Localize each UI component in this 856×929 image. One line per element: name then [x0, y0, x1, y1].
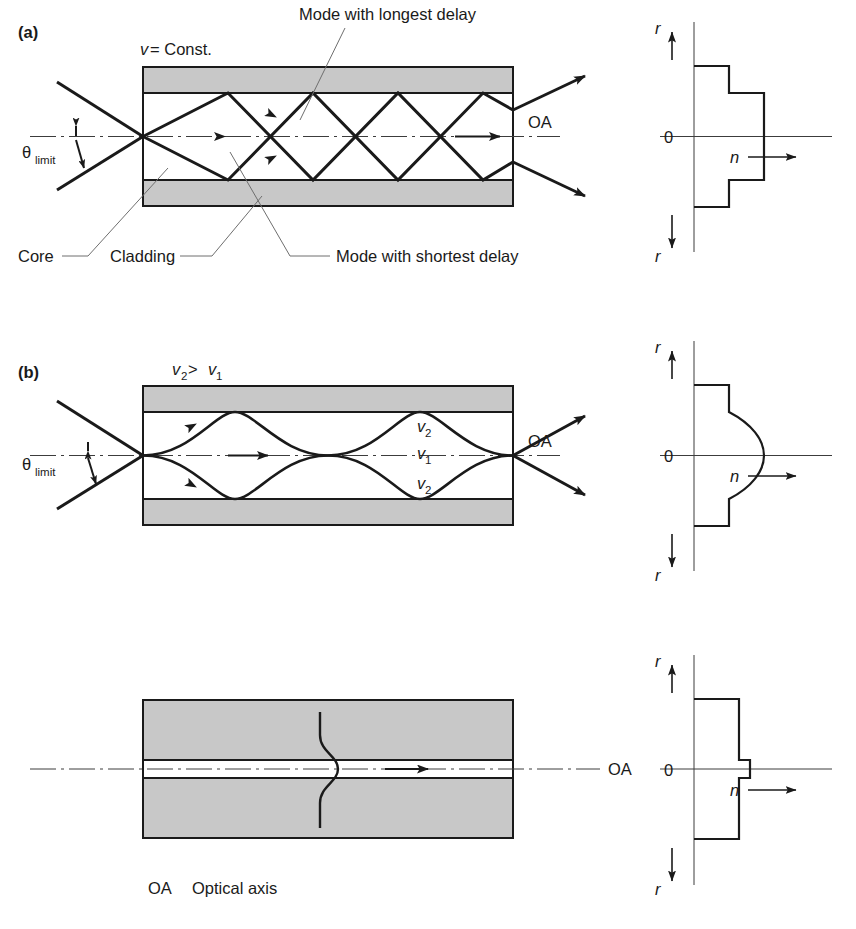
- panel-b-theta-symbol: θ: [22, 455, 31, 473]
- profile-b-n-label: n: [730, 467, 739, 485]
- profile-a-r-label-top: r: [655, 19, 662, 37]
- legend: OA Optical axis: [148, 879, 277, 897]
- panel-b-v2-upper-sub: 2: [425, 427, 431, 439]
- panel-b-cladding-top: [143, 386, 513, 412]
- panel-a-velocity-label: v = Const.: [140, 40, 212, 58]
- panel-b-exit-ray-lower: [513, 456, 585, 496]
- panel-a: (a) v = Const. θ limit: [18, 5, 585, 265]
- panel-b-v2-lower-sub: 2: [425, 484, 431, 496]
- panel-a-theta-subscript: limit: [35, 154, 56, 166]
- profile-a-n-label: n: [730, 148, 739, 166]
- panel-b-velocity-sub-2: 1: [216, 370, 222, 382]
- fiber-diagram-canvas: (a) v = Const. θ limit: [0, 0, 856, 929]
- panel-b-angle-arrow-down: [88, 458, 96, 484]
- panel-a-theta-limit: θ limit: [22, 126, 84, 168]
- panel-a-velocity-symbol: v: [140, 40, 150, 58]
- panel-a-velocity-text: = Const.: [150, 40, 212, 58]
- profile-a-zero-label: 0: [664, 128, 673, 146]
- panel-a-cladding-bottom: [143, 180, 513, 206]
- profile-a-r-label-bottom: r: [655, 247, 662, 265]
- panel-a-optical-axis-label: OA: [528, 113, 552, 131]
- panel-b-cladding-bottom: [143, 499, 513, 525]
- panel-b-incoming-ray-upper: [57, 401, 143, 456]
- panel-a-index-profile: r r 0 n: [655, 19, 832, 265]
- panel-c-optical-axis-label: OA: [608, 760, 632, 778]
- legend-abbreviation: OA: [148, 879, 172, 897]
- panel-b-incoming-ray-lower: [57, 456, 143, 510]
- panel-b-index-profile: r r 0 n: [655, 338, 832, 584]
- panel-a-theta-symbol: θ: [22, 143, 31, 161]
- panel-a-callout-longest-delay: Mode with longest delay: [299, 5, 477, 23]
- panel-a-incoming-ray-upper: [57, 82, 143, 137]
- panel-b-velocity-relation: >: [188, 360, 198, 378]
- profile-b-r-label-bottom: r: [655, 566, 662, 584]
- panel-b-v1-sub: 1: [425, 454, 431, 466]
- panel-b-theta-limit: θ limit: [22, 442, 96, 484]
- legend-meaning: Optical axis: [192, 879, 277, 897]
- panel-a-callout-shortest-delay: Mode with shortest delay: [336, 247, 519, 265]
- panel-b-label: (b): [18, 363, 39, 381]
- profile-c-r-label-bottom: r: [655, 880, 662, 898]
- profile-b-r-label-top: r: [655, 338, 662, 356]
- panel-b-theta-subscript: limit: [35, 466, 56, 478]
- profile-c-n-label: n: [730, 781, 739, 799]
- profile-b-zero-label: 0: [664, 447, 673, 465]
- panel-a-callout-cladding: Cladding: [110, 247, 175, 265]
- profile-c-r-label-top: r: [655, 652, 662, 670]
- panel-a-exit-ray-lower: [513, 162, 585, 196]
- panel-a-label: (a): [18, 23, 38, 41]
- panel-a-incoming-ray-lower: [57, 137, 143, 191]
- panel-a-exit-ray-upper: [513, 76, 585, 110]
- panel-a-angle-arrow-down: [76, 140, 84, 168]
- panel-a-cladding-top: [143, 67, 513, 93]
- panel-b: (b) v 2 > v 1 θ: [18, 360, 585, 525]
- panel-c: OA: [30, 700, 632, 838]
- panel-c-index-profile: r r 0 n: [655, 652, 832, 898]
- figure-root: (a) v = Const. θ limit: [0, 0, 856, 929]
- panel-b-optical-axis-label: OA: [528, 432, 552, 450]
- panel-b-velocity-label: v 2 > v 1: [172, 360, 222, 382]
- panel-a-callout-core: Core: [18, 247, 54, 265]
- profile-c-zero-label: 0: [664, 761, 673, 779]
- panel-b-velocity-sub-1: 2: [181, 370, 187, 382]
